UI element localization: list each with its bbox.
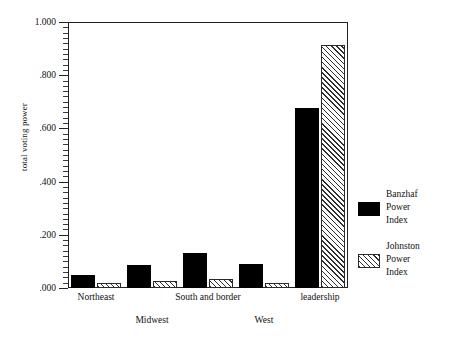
legend-label-line: Johnston [386, 240, 420, 253]
x-axis-label-northeast: Northeast [78, 292, 115, 302]
x-axis-label-leadership: leadership [300, 292, 339, 302]
x-axis-label-west: West [255, 315, 274, 325]
legend-label-line: Index [386, 214, 418, 227]
x-axis-label-midwest: Midwest [135, 315, 168, 325]
bar-chart: total voting power 1.000.800.600.400.200… [0, 0, 451, 350]
chart-legend: BanzhafPowerIndexJohnstonPowerIndex [358, 188, 450, 292]
legend-entry-banzhaf: BanzhafPowerIndex [358, 188, 450, 227]
legend-swatch-solid [358, 202, 380, 216]
legend-entry-johnston: JohnstonPowerIndex [358, 240, 450, 279]
legend-label-line: Index [386, 266, 420, 279]
legend-label-line: Power [386, 201, 418, 214]
legend-swatch-hatch [358, 254, 380, 268]
legend-label: JohnstonPowerIndex [386, 240, 420, 279]
legend-label: BanzhafPowerIndex [386, 188, 418, 227]
x-axis-labels: NortheastMidwestSouth and borderWestlead… [0, 0, 451, 350]
legend-label-line: Banzhaf [386, 188, 418, 201]
legend-label-line: Power [386, 253, 420, 266]
x-axis-label-south-and-border: South and border [175, 292, 240, 302]
